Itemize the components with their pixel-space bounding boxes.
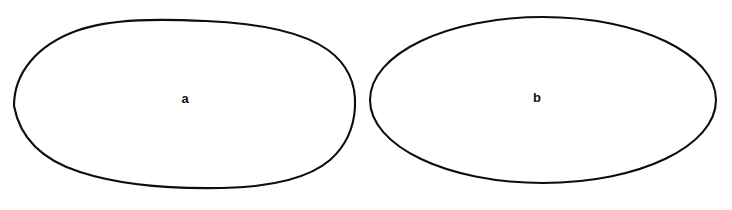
canvas-background — [0, 0, 732, 210]
oval-a-label: a — [181, 91, 189, 106]
oval-b-label: b — [533, 90, 541, 105]
figure-canvas: a b — [0, 0, 732, 210]
shapes-diagram: a b — [0, 0, 732, 210]
